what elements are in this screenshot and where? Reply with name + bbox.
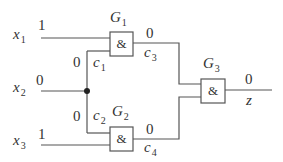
- gate-g1-symbol: &: [110, 37, 133, 50]
- output-z-value: 0: [245, 72, 253, 87]
- input-x1-value: 1: [38, 18, 46, 33]
- input-x1-label: x1: [13, 27, 26, 45]
- wire-c2-label: c2: [93, 108, 106, 126]
- gate-g3-symbol: &: [201, 84, 225, 97]
- input-x2-value: 0: [36, 73, 44, 88]
- gate-g3-label: G3: [203, 56, 220, 74]
- logic-circuit-diagram: & & & G1 G2 G3 x1 1 x2 0 x3 1 0 c1 0 c2 …: [0, 0, 283, 162]
- output-z-label: z: [246, 93, 252, 108]
- wire-c3-value: 0: [146, 26, 154, 41]
- input-x3-label: x3: [13, 133, 26, 151]
- wire-c2-value: 0: [73, 109, 81, 124]
- input-x3-value: 1: [38, 127, 46, 142]
- wire-c3-label: c3: [144, 45, 157, 63]
- gate-g1-label: G1: [110, 10, 127, 28]
- wire-c4-label: c4: [144, 140, 157, 158]
- wire-c1-label: c1: [93, 55, 106, 73]
- gate-g2-symbol: &: [110, 132, 133, 145]
- wire-c1-value: 0: [73, 55, 81, 70]
- junction-dot: [84, 88, 90, 94]
- gate-g2-label: G2: [112, 104, 129, 122]
- input-x2-label: x2: [13, 80, 26, 98]
- wire-c4-value: 0: [146, 122, 154, 137]
